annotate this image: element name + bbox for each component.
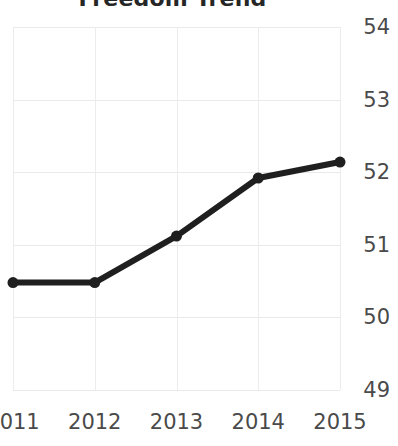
x-axis-tick-label: 2013 (150, 412, 203, 433)
y-axis-tick-label: 49 (363, 380, 390, 401)
data-point-marker (171, 231, 182, 242)
plot-area (13, 27, 340, 390)
x-axis-tick-label: 2015 (313, 412, 366, 433)
data-point-marker (89, 277, 100, 288)
y-axis-tick-label: 50 (363, 307, 390, 328)
y-axis-tick-label: 53 (363, 89, 390, 110)
y-axis-tick-label: 51 (363, 234, 390, 255)
data-point-marker (253, 173, 264, 184)
y-axis-tick-label: 54 (363, 17, 390, 38)
gridline-vertical (340, 27, 341, 390)
gridline-horizontal (13, 390, 340, 391)
data-point-marker (8, 277, 19, 288)
chart-container: Freedom Trend 545352515049 2011201220132… (0, 0, 398, 446)
data-line (13, 162, 340, 283)
x-axis-tick-label: 2011 (0, 412, 40, 433)
y-axis-tick-label: 52 (363, 162, 390, 183)
line-series-freedom-trend (13, 27, 340, 390)
x-axis-tick-label: 2014 (232, 412, 285, 433)
chart-title: Freedom Trend (0, 0, 345, 12)
x-axis-tick-label: 2012 (68, 412, 121, 433)
data-point-marker (335, 157, 346, 168)
